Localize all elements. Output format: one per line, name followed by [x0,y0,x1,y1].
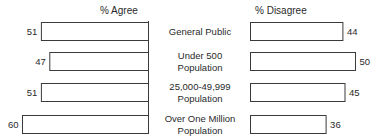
agree-disagree-chart: % Agree % Disagree 5144General Public475… [0,0,373,139]
agree-bar [41,84,148,102]
disagree-bar [251,53,356,71]
disagree-bar [251,116,327,134]
category-label: Under 500 [178,50,222,61]
disagree-bar [251,84,346,102]
agree-bar [41,23,148,41]
agree-bar [23,116,149,134]
disagree-value-label: 50 [360,56,371,67]
agree-header: % Agree [100,5,138,16]
category-label: Population [178,62,223,73]
agree-bar [50,53,149,71]
category-label: Population [178,93,223,104]
agree-value-label: 51 [27,26,38,37]
category-label: 25,000-49,999 [169,81,230,92]
agree-value-label: 47 [35,56,46,67]
disagree-value-label: 44 [347,26,358,37]
agree-value-label: 60 [8,119,19,130]
category-label: Population [178,125,223,136]
disagree-bar [251,23,343,41]
disagree-value-label: 36 [330,119,341,130]
disagree-header: % Disagree [255,5,307,16]
category-label: Over One Million [165,113,236,124]
category-label: General Public [169,26,232,37]
disagree-value-label: 45 [349,87,360,98]
agree-value-label: 51 [27,87,38,98]
